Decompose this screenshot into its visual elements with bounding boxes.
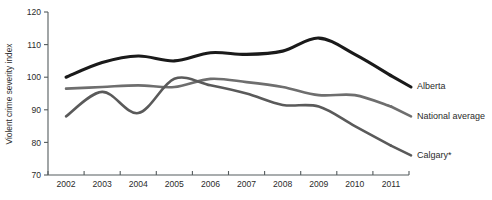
x-tick-label: 2007 (237, 179, 256, 189)
x-tick-label: 2005 (165, 179, 184, 189)
y-tick-label: 70 (31, 170, 41, 180)
y-tick-label: 100 (27, 72, 42, 82)
series-line (66, 77, 391, 145)
series-labels: AlbertaNational averageCalgary* (417, 81, 485, 159)
x-tick-label: 2006 (201, 179, 220, 189)
series-label-calgary: Calgary* (417, 150, 452, 160)
series-leader-line (391, 107, 411, 117)
y-axis-title: Violent crime severity index (4, 43, 14, 145)
series-lines (66, 38, 411, 155)
series-label-alberta: Alberta (417, 81, 446, 91)
x-tick-label: 2008 (273, 179, 292, 189)
y-axis: 708090100110120 (27, 7, 48, 180)
x-tick-label: 2010 (345, 179, 364, 189)
chart-canvas: 708090100110120 200220032004200520062007… (0, 0, 492, 200)
x-tick-label: 2009 (309, 179, 328, 189)
violent-crime-severity-index-chart: 708090100110120 200220032004200520062007… (0, 0, 492, 200)
series-leader-line (391, 146, 411, 156)
y-tick-label: 90 (31, 105, 41, 115)
series-leader-line (391, 76, 411, 87)
x-axis: 2002200320042005200620072008200920102011 (48, 171, 409, 189)
y-tick-label: 80 (31, 138, 41, 148)
x-tick-label: 2004 (129, 179, 148, 189)
x-tick-label: 2011 (382, 179, 401, 189)
x-tick-label: 2003 (93, 179, 112, 189)
x-tick-label: 2002 (56, 179, 75, 189)
series-line (66, 79, 391, 107)
y-tick-label: 120 (27, 7, 42, 17)
series-label-national-average: National average (417, 111, 485, 121)
series-line (66, 38, 391, 77)
y-tick-label: 110 (27, 40, 41, 50)
